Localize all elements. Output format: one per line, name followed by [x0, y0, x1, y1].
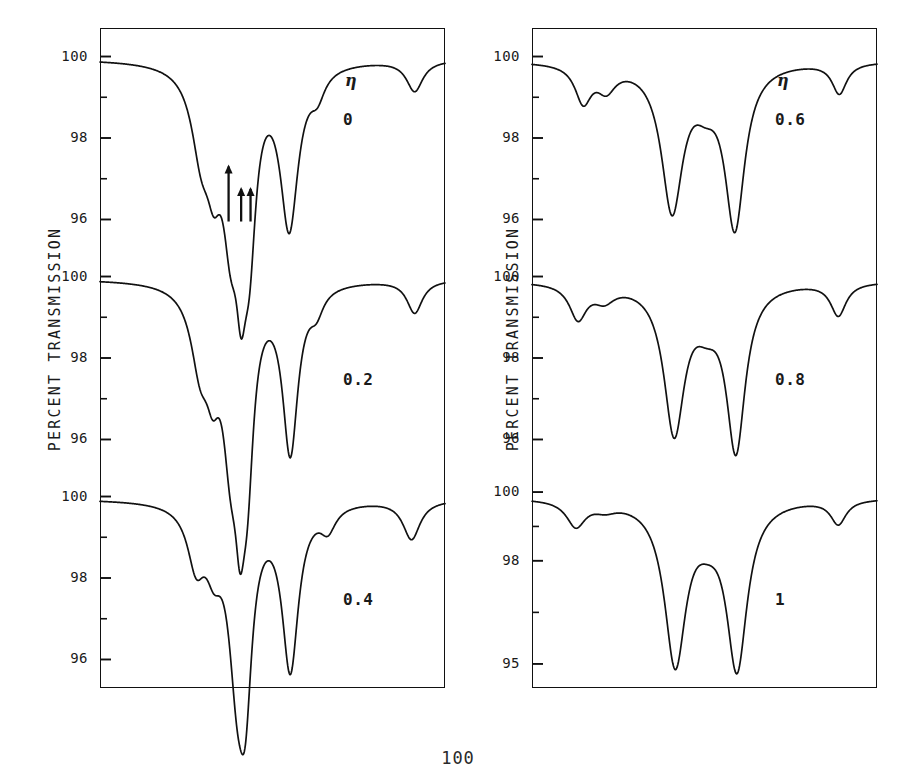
eta-value-panel-eta-0.8: 0.8 — [775, 370, 805, 389]
y-tick-label-panel-eta-0.2-96: 96 — [54, 430, 88, 446]
eta-value-panel-eta-0: 0 — [343, 110, 353, 129]
y-tick-label-panel-eta-0.8-98: 98 — [486, 349, 520, 365]
annotation-arrow-panel-eta-0-1 — [237, 187, 245, 222]
spectrum-curve-panel-eta-0.4 — [100, 501, 445, 754]
y-tick-label-panel-eta-0.2-100: 100 — [54, 268, 88, 284]
y-tick-label-panel-eta-0.2-98: 98 — [54, 349, 88, 365]
y-tick-label-panel-eta-1-95: 95 — [486, 655, 520, 671]
spectrum-curve-panel-eta-1 — [532, 501, 877, 674]
y-tick-label-panel-eta-0.4-98: 98 — [54, 569, 88, 585]
mossbauer-spectra-figure: PERCENT TRANSMISSION PERCENT TRANSMISSIO… — [0, 0, 916, 774]
spectrum-curve-panel-eta-0.8 — [532, 284, 877, 455]
y-tick-label-panel-eta-0-96: 96 — [54, 210, 88, 226]
eta-symbol-panel-eta-0: η — [345, 71, 357, 90]
y-tick-label-panel-eta-0-100: 100 — [54, 48, 88, 64]
spectrum-curve-panel-eta-0.2 — [100, 282, 445, 575]
eta-value-panel-eta-0.2: 0.2 — [343, 370, 373, 389]
page-number: 100 — [0, 748, 916, 772]
eta-value-panel-eta-0.4: 0.4 — [343, 590, 373, 609]
eta-symbol-panel-eta-0.6: η — [777, 71, 789, 90]
y-tick-label-panel-eta-0.4-96: 96 — [54, 650, 88, 666]
spectrum-curve-panel-eta-0 — [100, 62, 445, 339]
eta-value-panel-eta-0.6: 0.6 — [775, 110, 805, 129]
y-tick-label-panel-eta-0.8-100: 100 — [486, 268, 520, 284]
y-tick-label-panel-eta-0.6-96: 96 — [486, 210, 520, 226]
spectrum-curve-panel-eta-0.6 — [532, 64, 877, 233]
annotation-arrow-panel-eta-0-0 — [225, 165, 233, 222]
eta-value-panel-eta-1: 1 — [775, 590, 785, 609]
y-tick-label-panel-eta-0-98: 98 — [54, 129, 88, 145]
y-tick-label-panel-eta-1-100: 100 — [486, 483, 520, 499]
y-tick-label-panel-eta-0.6-100: 100 — [486, 48, 520, 64]
y-tick-label-panel-eta-1-98: 98 — [486, 552, 520, 568]
annotation-arrow-panel-eta-0-2 — [247, 187, 255, 222]
y-tick-label-panel-eta-0.4-100: 100 — [54, 488, 88, 504]
y-tick-label-panel-eta-0.8-96: 96 — [486, 430, 520, 446]
y-tick-label-panel-eta-0.6-98: 98 — [486, 129, 520, 145]
